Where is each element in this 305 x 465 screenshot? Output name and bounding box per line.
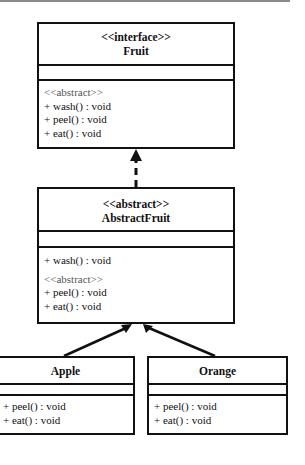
realization-arrow [130,149,142,187]
generalization-arrow-apple [64,324,132,356]
arrowhead-icon [130,149,142,161]
relationship-arrows [0,0,305,465]
generalization-arrow-orange [143,324,215,356]
